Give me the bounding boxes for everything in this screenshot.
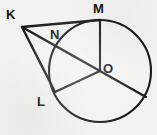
point-label-n: N bbox=[50, 28, 59, 41]
point-label-k: K bbox=[6, 8, 15, 21]
segment-km bbox=[22, 20, 100, 27]
geometry-canvas bbox=[0, 0, 157, 135]
point-label-l: L bbox=[37, 95, 45, 108]
segment-lo-radius bbox=[55, 71, 100, 92]
geometry-figure: K M N O L bbox=[0, 0, 157, 135]
point-label-m: M bbox=[93, 2, 104, 15]
point-label-o: O bbox=[103, 62, 113, 75]
